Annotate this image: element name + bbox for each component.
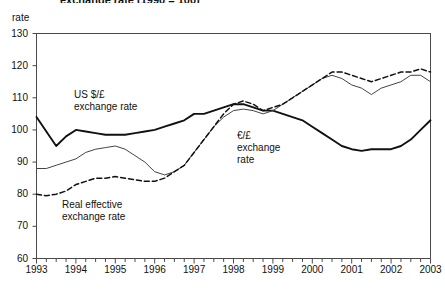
chart-figure: exchange rate (1990 = 100) rate 13012011… xyxy=(0,0,445,293)
x-tick-label: 1995 xyxy=(98,264,132,275)
x-tick-label: 2001 xyxy=(335,264,369,275)
x-tick-label: 1994 xyxy=(59,264,93,275)
annotation-euro-sterling: €/£ exchange rate xyxy=(237,130,280,166)
data-series-layer xyxy=(37,69,431,196)
annotation-us-dollar-sterling: US $/£ exchange rate xyxy=(74,89,137,113)
annotation-reer-line-1: Real effective xyxy=(62,199,125,211)
y-tick-label: 110 xyxy=(4,92,28,103)
x-tick-label: 2003 xyxy=(414,264,445,275)
y-tick-label: 80 xyxy=(4,188,28,199)
y-axis-ticks xyxy=(33,34,37,259)
annotation-reer-line-2: exchange rate xyxy=(62,211,125,223)
annotation-eur-line-3: rate xyxy=(237,154,280,166)
x-tick-label: 1997 xyxy=(177,264,211,275)
chart-plot xyxy=(0,0,445,293)
x-axis-ticks xyxy=(37,259,431,264)
plot-frame xyxy=(37,34,431,259)
x-tick-label: 1999 xyxy=(256,264,290,275)
x-tick-label: 1993 xyxy=(20,264,54,275)
y-tick-label: 120 xyxy=(4,60,28,71)
annotation-usd-line-2: exchange rate xyxy=(74,101,137,113)
x-tick-label: 1998 xyxy=(217,264,251,275)
y-tick-label: 100 xyxy=(4,124,28,135)
annotation-eur-line-2: exchange xyxy=(237,142,280,154)
x-tick-label: 1996 xyxy=(138,264,172,275)
y-tick-label: 130 xyxy=(4,28,28,39)
annotation-real-effective-rate: Real effective exchange rate xyxy=(62,199,125,223)
annotation-usd-line-1: US $/£ xyxy=(74,89,137,101)
y-tick-label: 70 xyxy=(4,220,28,231)
x-tick-label: 2002 xyxy=(374,264,408,275)
annotation-eur-line-1: €/£ xyxy=(237,130,280,142)
y-tick-label: 90 xyxy=(4,156,28,167)
x-tick-label: 2000 xyxy=(295,264,329,275)
y-tick-label: 60 xyxy=(4,253,28,264)
